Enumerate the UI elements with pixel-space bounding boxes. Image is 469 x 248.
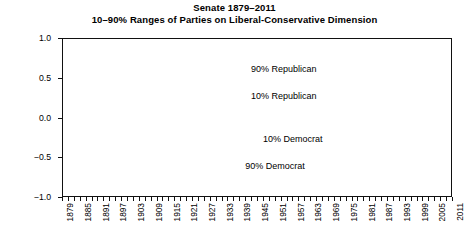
y-tick-label: −0.5 — [34, 152, 51, 162]
x-tick-mark — [115, 197, 116, 201]
x-tick-mark — [133, 197, 134, 201]
x-tick-mark — [411, 197, 412, 201]
x-tick-label: 1879 — [65, 203, 75, 221]
x-tick-mark — [227, 197, 228, 201]
plot-area: 90% Republican10% Republican10% Democrat… — [62, 38, 452, 197]
x-tick-label: 1963 — [313, 203, 323, 221]
chart-root: Senate 1879–2011 10–90% Ranges of Partie… — [0, 0, 469, 248]
x-tick-mark — [210, 197, 211, 201]
x-tick-label: 1945 — [260, 203, 270, 221]
x-tick-mark — [340, 197, 341, 201]
x-tick-label: 1927 — [207, 203, 217, 221]
x-tick-mark — [452, 197, 453, 201]
x-tick-mark — [440, 197, 441, 201]
x-tick-mark — [251, 197, 252, 201]
x-tick-mark — [168, 197, 169, 201]
x-tick-mark — [387, 197, 388, 201]
x-tick-label: 1969 — [331, 203, 341, 221]
x-tick-label: 1993 — [402, 203, 412, 221]
x-tick-label: 2011 — [455, 203, 465, 221]
x-tick-mark — [180, 197, 181, 201]
x-tick-mark — [121, 197, 122, 201]
x-tick-label: 2005 — [437, 203, 447, 221]
x-tick-mark — [162, 197, 163, 201]
annotation-republican: 10% Republican — [251, 91, 317, 101]
x-tick-mark — [434, 197, 435, 201]
chart-title: Senate 1879–2011 10–90% Ranges of Partie… — [0, 2, 469, 25]
x-tick-mark — [97, 197, 98, 201]
x-tick-mark — [393, 197, 394, 201]
x-tick-mark — [399, 197, 400, 201]
x-tick-mark — [381, 197, 382, 201]
x-tick-mark — [233, 197, 234, 201]
x-tick-mark — [103, 197, 104, 201]
title-line-2: 10–90% Ranges of Parties on Liberal-Cons… — [0, 14, 469, 26]
x-tick-mark — [198, 197, 199, 201]
annotation-republican: 90% Republican — [251, 64, 317, 74]
x-tick-label: 1981 — [367, 203, 377, 221]
x-tick-mark — [257, 197, 258, 201]
x-tick-mark — [428, 197, 429, 201]
x-tick-label: 1987 — [384, 203, 394, 221]
x-tick-mark — [422, 197, 423, 201]
x-tick-mark — [346, 197, 347, 201]
x-tick-mark — [186, 197, 187, 201]
x-tick-mark — [245, 197, 246, 201]
x-tick-label: 1951 — [278, 203, 288, 221]
x-tick-label: 1891 — [101, 203, 111, 221]
x-tick-label: 1897 — [118, 203, 128, 221]
x-tick-mark — [74, 197, 75, 201]
x-tick-mark — [86, 197, 87, 201]
x-tick-label: 1975 — [349, 203, 359, 221]
x-tick-label: 1999 — [420, 203, 430, 221]
x-tick-mark — [222, 197, 223, 201]
x-tick-mark — [127, 197, 128, 201]
x-tick-label: 1957 — [296, 203, 306, 221]
x-tick-mark — [239, 197, 240, 201]
x-tick-mark — [192, 197, 193, 201]
x-tick-mark — [310, 197, 311, 201]
x-tick-mark — [157, 197, 158, 201]
x-tick-mark — [275, 197, 276, 201]
x-tick-mark — [269, 197, 270, 201]
x-tick-mark — [139, 197, 140, 201]
x-tick-label: 1903 — [136, 203, 146, 221]
x-tick-mark — [151, 197, 152, 201]
x-tick-mark — [375, 197, 376, 201]
x-tick-label: 1909 — [154, 203, 164, 221]
y-tick-label: 0.0 — [39, 113, 51, 123]
x-tick-label: 1933 — [225, 203, 235, 221]
x-tick-mark — [204, 197, 205, 201]
y-tick-label: −1.0 — [34, 192, 51, 202]
x-tick-mark — [316, 197, 317, 201]
x-tick-mark — [304, 197, 305, 201]
x-tick-mark — [405, 197, 406, 201]
y-axis-ticks: 1.00.50.0−0.5−1.0 — [0, 38, 58, 197]
x-tick-mark — [298, 197, 299, 201]
x-tick-mark — [322, 197, 323, 201]
x-tick-mark — [68, 197, 69, 201]
x-tick-label: 1939 — [242, 203, 252, 221]
y-tick-label: 0.5 — [39, 73, 51, 83]
x-tick-mark — [287, 197, 288, 201]
title-line-1: Senate 1879–2011 — [0, 2, 469, 14]
annotation-democrat: 90% Democrat — [245, 161, 305, 171]
x-tick-mark — [80, 197, 81, 201]
x-tick-mark — [334, 197, 335, 201]
x-tick-mark — [174, 197, 175, 201]
x-axis-ticks: 1879188518911897190319091915192119271933… — [62, 197, 452, 248]
x-tick-label: 1915 — [172, 203, 182, 221]
x-tick-mark — [352, 197, 353, 201]
x-tick-mark — [363, 197, 364, 201]
x-tick-mark — [92, 197, 93, 201]
x-tick-mark — [369, 197, 370, 201]
annotation-democrat: 10% Democrat — [263, 134, 323, 144]
x-tick-mark — [417, 197, 418, 201]
x-tick-mark — [281, 197, 282, 201]
plot-frame — [62, 38, 452, 197]
x-tick-mark — [263, 197, 264, 201]
y-tick-label: 1.0 — [39, 33, 51, 43]
x-tick-mark — [145, 197, 146, 201]
x-tick-mark — [62, 197, 63, 201]
x-tick-mark — [109, 197, 110, 201]
